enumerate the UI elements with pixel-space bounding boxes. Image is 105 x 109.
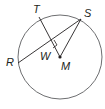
label-w: W [40, 50, 52, 62]
label-m: M [61, 60, 71, 72]
diagram-canvas: T S R W M [0, 0, 105, 109]
center-point-m [58, 55, 61, 58]
segment-sm [60, 19, 81, 57]
label-s: S [84, 7, 92, 19]
label-t: T [33, 3, 41, 15]
circle-diagram: T S R W M [0, 0, 105, 109]
label-r: R [6, 56, 14, 68]
